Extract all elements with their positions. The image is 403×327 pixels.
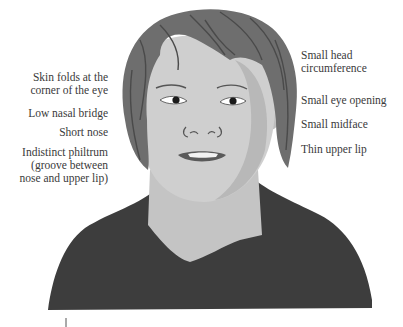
- label-small-eye-opening: Small eye opening: [301, 94, 403, 107]
- label-small-midface: Small midface: [301, 118, 403, 131]
- label-small-head-circumference: Small head circumference: [301, 49, 403, 75]
- face-diagram: Skin folds at the corner of the eye Low …: [0, 0, 403, 327]
- teeth: [188, 153, 218, 158]
- label-short-nose: Short nose: [0, 126, 108, 139]
- label-thin-upper-lip: Thin upper lip: [301, 143, 403, 156]
- label-skin-folds: Skin folds at the corner of the eye: [0, 71, 108, 97]
- label-low-nasal-bridge: Low nasal bridge: [0, 107, 108, 120]
- label-indistinct-philtrum: Indistinct philtrum (groove between nose…: [0, 146, 108, 185]
